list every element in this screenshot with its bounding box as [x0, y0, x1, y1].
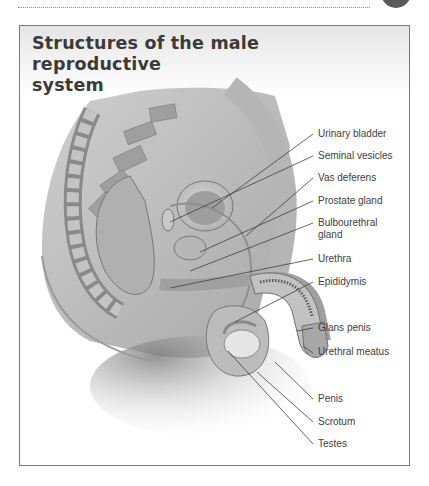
label-bulbourethral-line-2: gland [318, 229, 342, 240]
label-urinary-bladder: Urinary bladder [318, 128, 386, 140]
label-vas-deferens: Vas deferens [318, 172, 376, 184]
label-urethral-meatus: Urethral meatus [318, 346, 389, 358]
label-bulbourethral-gland: Bulbourethral gland [318, 217, 377, 241]
label-scrotum: Scrotum [318, 416, 355, 428]
label-penis: Penis [318, 393, 343, 405]
pelvis-section [42, 86, 328, 436]
figure-frame: Structures of the male reproductive syst… [19, 25, 410, 466]
label-urethra: Urethra [318, 253, 351, 265]
label-glans-penis: Glans penis [318, 322, 371, 334]
label-seminal-vesicles: Seminal vesicles [318, 150, 392, 162]
label-testes: Testes [318, 438, 347, 450]
anatomy-illustration [20, 26, 411, 467]
label-epididymis: Epididymis [318, 276, 366, 288]
label-prostate-gland: Prostate gland [318, 195, 383, 207]
label-bulbourethral-line-1: Bulbourethral [318, 217, 377, 228]
page-top-dotted-rule [18, 7, 370, 8]
page-number-circle [381, 0, 411, 8]
